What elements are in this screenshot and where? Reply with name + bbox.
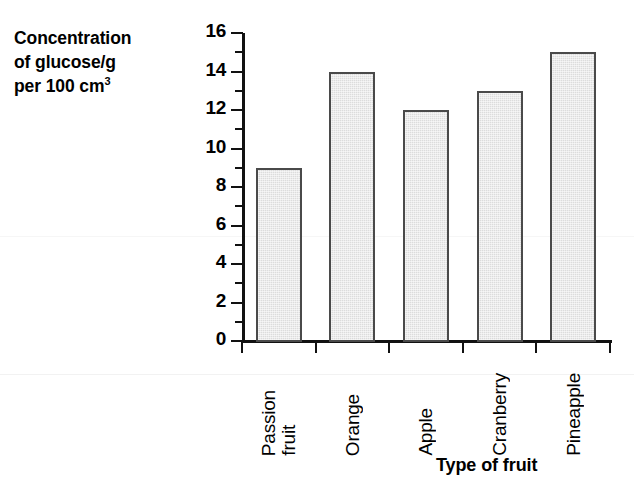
bar xyxy=(329,72,375,343)
glucose-concentration-bar-chart: Concentration of glucose/g per 100 cm3 1… xyxy=(0,0,634,492)
x-axis-category-label-line: Passion xyxy=(259,390,278,456)
bar xyxy=(550,52,596,342)
x-axis-category-label: Cranberry xyxy=(463,352,537,456)
x-axis-category-label-line: Cranberry xyxy=(490,373,509,456)
x-axis-category-label: Passionfruit xyxy=(242,352,316,456)
bar xyxy=(477,91,523,342)
x-axis-category-label-line: Apple xyxy=(416,408,435,456)
x-axis-title: Type of fruit xyxy=(436,455,537,476)
x-axis-category-label: Pineapple xyxy=(536,352,610,456)
bar xyxy=(256,168,302,342)
x-axis-category-label-line: Orange xyxy=(343,394,362,456)
x-axis-category-label: Orange xyxy=(316,352,390,456)
x-axis-category-label-line: fruit xyxy=(279,425,298,456)
bar xyxy=(403,110,449,342)
x-axis-category-label-line: Pineapple xyxy=(564,373,583,456)
x-axis-category-label: Apple xyxy=(389,352,463,456)
